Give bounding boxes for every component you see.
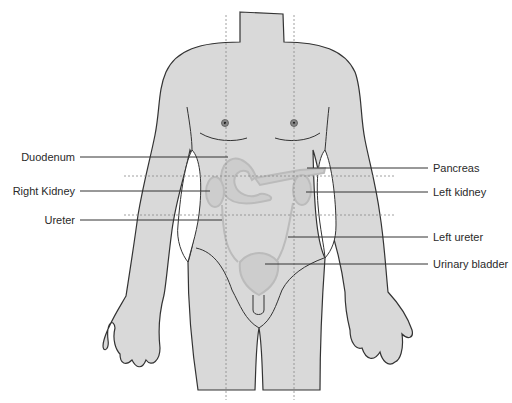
label-ureter: Ureter bbox=[44, 214, 75, 226]
right-kidney bbox=[206, 177, 224, 207]
anatomy-figure bbox=[0, 0, 512, 403]
label-left-kidney: Left kidney bbox=[433, 186, 486, 198]
label-right-kidney: Right Kidney bbox=[13, 185, 75, 197]
label-left-ureter: Left ureter bbox=[433, 231, 483, 243]
label-pancreas: Pancreas bbox=[433, 162, 479, 174]
label-duodenum: Duodenum bbox=[21, 151, 75, 163]
left-kidney bbox=[293, 175, 311, 205]
label-urinary-bladder: Urinary bladder bbox=[433, 258, 508, 270]
